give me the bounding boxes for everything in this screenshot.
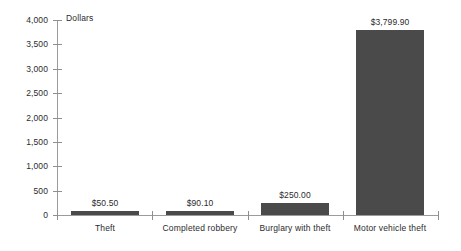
y-axis-tick-mark	[53, 166, 62, 167]
y-axis-tick: 0	[0, 215, 62, 216]
y-axis-tick-mark	[53, 191, 62, 192]
bar	[166, 211, 234, 215]
x-axis-tick-mark	[438, 211, 439, 220]
y-axis-tick: 2,500	[0, 93, 62, 94]
bar-chart: Dollars 05001,0001,5002,0002,5003,0003,5…	[0, 0, 461, 251]
y-axis-tick-label: 0	[4, 210, 48, 220]
y-axis-tick-mark	[53, 20, 62, 21]
y-axis-tick: 2,000	[0, 118, 62, 119]
y-axis-tick-mark	[53, 142, 62, 143]
bar-value-label: $250.00	[245, 190, 345, 200]
y-axis-tick-label: 1,000	[4, 161, 48, 171]
y-axis-tick: 1,000	[0, 166, 62, 167]
y-axis-tick-label: 2,000	[4, 113, 48, 123]
y-axis-tick-mark	[53, 93, 62, 94]
x-axis-tick-mark	[152, 211, 153, 220]
bar-value-label: $50.50	[55, 198, 155, 208]
y-axis-tick-label: 500	[4, 186, 48, 196]
y-axis-tick-label: 2,500	[4, 88, 48, 98]
bar	[356, 30, 424, 215]
bar	[261, 203, 329, 215]
y-axis-tick: 3,000	[0, 69, 62, 70]
y-axis-tick: 500	[0, 191, 62, 192]
x-axis-category-label: Motor vehicle theft	[330, 223, 450, 233]
y-axis-tick-mark	[53, 69, 62, 70]
y-axis-tick: 3,500	[0, 44, 62, 45]
bar-value-label: $90.10	[150, 198, 250, 208]
x-axis-tick-mark	[248, 211, 249, 220]
y-axis-unit-label: Dollars	[66, 13, 94, 23]
y-axis-tick-mark	[53, 118, 62, 119]
bar-value-label: $3,799.90	[340, 17, 440, 27]
y-axis-tick-mark	[53, 44, 62, 45]
y-axis-tick: 4,000	[0, 20, 62, 21]
y-axis-tick: 1,500	[0, 142, 62, 143]
y-axis-tick-label: 1,500	[4, 137, 48, 147]
y-axis-tick-label: 4,000	[4, 15, 48, 25]
x-axis-tick-mark	[57, 211, 58, 220]
y-axis-tick-label: 3,500	[4, 39, 48, 49]
x-axis-tick-mark	[343, 211, 344, 220]
y-axis-tick-label: 3,000	[4, 64, 48, 74]
bar	[71, 211, 139, 215]
